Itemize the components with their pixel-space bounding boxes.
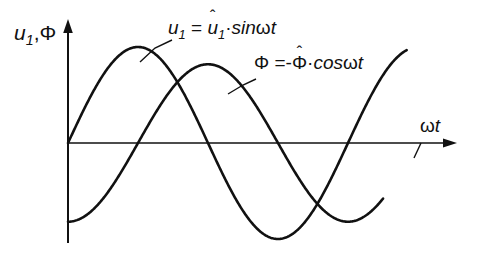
u1-eq-lhs: u xyxy=(168,17,179,38)
u1-equation-label: u1 = ˆu1·sinωt xyxy=(168,18,276,41)
x-axis-arrowhead xyxy=(443,138,457,147)
phi-eq-amp: ˆΦ xyxy=(292,53,307,72)
waveform-figure: u1,Φ ωt u1 = ˆu1·sinωt Φ =-ˆΦ·cosωt xyxy=(0,0,477,260)
leader-line-omega-t xyxy=(414,143,421,158)
y-axis-arrowhead xyxy=(63,19,73,33)
u1-eq-equals: = xyxy=(191,17,202,38)
y-axis-label-u: u xyxy=(14,21,26,44)
x-axis xyxy=(68,138,457,147)
phi-eq-lhs: Φ xyxy=(254,52,269,73)
u1-eq-omega: ω xyxy=(256,17,271,38)
u1-eq-amp-hat: ˆ xyxy=(210,8,215,24)
y-axis-label-phi: Φ xyxy=(39,21,56,44)
u1-eq-amp: ˆu xyxy=(207,18,218,37)
y-axis-label: u1,Φ xyxy=(14,22,56,47)
phi-eq-amp-hat: ˆ xyxy=(297,44,302,60)
x-axis-label: ωt xyxy=(420,116,440,135)
phi-eq-func: cos xyxy=(313,52,343,73)
phi-equation-label: Φ =-ˆΦ·cosωt xyxy=(254,53,363,72)
phi-eq-omega: ω xyxy=(343,52,358,73)
u1-eq-lhs-sub: 1 xyxy=(179,27,186,42)
u1-eq-func: sin xyxy=(232,17,256,38)
y-axis xyxy=(63,19,73,243)
x-axis-label-t: t xyxy=(435,115,440,136)
x-axis-label-omega: ω xyxy=(420,115,435,136)
phi-eq-t: t xyxy=(358,52,363,73)
u1-eq-t: t xyxy=(271,17,276,38)
phi-eq-equals: = xyxy=(274,52,285,73)
y-axis-label-sub: 1 xyxy=(26,32,34,48)
leader-line-u1 xyxy=(140,40,172,62)
